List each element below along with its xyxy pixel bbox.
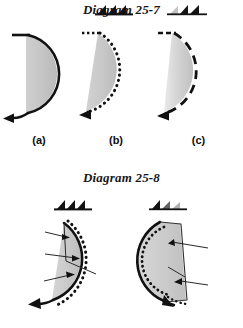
diagram-page: Diagram 25-7 [0, 0, 243, 328]
sawtooth-baseline [149, 208, 187, 210]
shape-fill [26, 35, 57, 113]
sawtooth-marks-25-7-b [95, 5, 133, 15]
panel-label-25-7-c: (c) [154, 134, 243, 146]
panel-25-7-c: (c) [154, 0, 243, 164]
shape-dashed-semicircle [154, 0, 243, 134]
arrow-head-icon [28, 298, 41, 309]
shape-fill [136, 222, 186, 301]
figure-25-7: Diagram 25-7 [0, 0, 243, 164]
sawtooth-baseline [54, 208, 92, 210]
arrow-tail [13, 113, 28, 118]
panel-label-25-7-a: (a) [0, 134, 78, 146]
sawtooth-tooth-icon [98, 5, 106, 14]
sawtooth-baseline [167, 13, 207, 15]
sawtooth-tooth-icon [77, 200, 85, 209]
sawtooth-tooth-icon [67, 200, 75, 209]
shape-dotted-semicircle [78, 0, 154, 134]
panel-25-8-a: Quick Steady Accelerate Stop (a) [0, 164, 124, 328]
panel-25-7-b: (b) [78, 0, 154, 164]
shape-quick-steady-accelerate [0, 164, 124, 309]
sawtooth-tooth-icon [57, 200, 65, 209]
sawtooth-tooth-icon [190, 5, 199, 14]
sawtooth-tooth-icon [118, 5, 126, 14]
leader-line-steady [181, 281, 208, 285]
sawtooth-baseline [95, 13, 133, 15]
sawtooth-tooth-icon [170, 6, 178, 14]
sawtooth-marks-25-8-b [149, 200, 187, 210]
shape-solid-semicircle [0, 0, 78, 134]
arrow-head-icon [157, 111, 169, 121]
sawtooth-marks-25-7-c [167, 5, 207, 15]
panel-25-8-b: Quick Steady (b) [124, 164, 243, 328]
shape-quick-steady-mirrored [124, 164, 243, 309]
arrow-head-icon [79, 110, 91, 120]
sawtooth-tooth-icon [152, 200, 160, 209]
sawtooth-marks-25-8-a [54, 200, 92, 210]
sawtooth-tooth-icon [180, 5, 188, 14]
sawtooth-tooth-icon [162, 201, 170, 209]
panel-25-7-a: (a) [0, 0, 78, 164]
figure-25-8: Diagram 25-8 [0, 164, 243, 328]
arrow-head-icon [3, 114, 14, 124]
panel-label-25-7-b: (b) [78, 134, 154, 146]
sawtooth-tooth-icon [172, 202, 180, 209]
sawtooth-tooth-icon [108, 5, 116, 14]
